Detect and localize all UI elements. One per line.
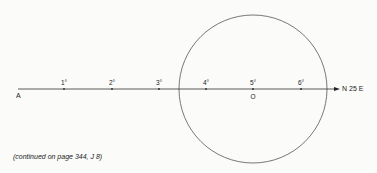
continuation-caption: (continued on page 344, J 8) <box>13 153 102 160</box>
arrowhead-icon <box>334 87 340 91</box>
tick-label-5: 5° <box>250 79 256 87</box>
start-label: A <box>16 92 21 100</box>
tick-label-6: 6° <box>298 79 304 87</box>
tick-label-4: 4° <box>203 79 209 87</box>
tick-label-1: 1° <box>61 79 67 87</box>
end-label: N 25 E <box>342 85 363 93</box>
tick-label-2: 2° <box>109 79 115 87</box>
tick-label-3: 3° <box>156 79 162 87</box>
diagram-canvas <box>0 0 377 173</box>
center-label: O <box>250 93 255 101</box>
